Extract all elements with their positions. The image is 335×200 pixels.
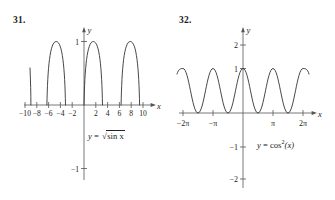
svg-text:2π: 2π [299, 119, 307, 128]
equation-label-31: y = √sin x [88, 130, 125, 141]
eqn31-lhs: y [88, 131, 92, 141]
svg-text:−2π: −2π [177, 119, 190, 128]
svg-text:−6: −6 [45, 109, 53, 118]
svg-text:1: 1 [75, 38, 79, 47]
x-axis-label: x [156, 101, 161, 111]
svg-text:10: 10 [139, 109, 147, 118]
y-axis-label: y [87, 25, 92, 35]
curve-sqrt-sin-x [30, 42, 140, 106]
svg-text:−8: −8 [33, 109, 41, 118]
svg-text:4: 4 [106, 109, 110, 118]
plot-cos-squared-x: y x −2π −π π 2π 2 1 −1 −2 [167, 0, 335, 200]
eqn32-function: cos [270, 140, 281, 150]
svg-text:6: 6 [118, 109, 122, 118]
svg-text:−2: −2 [68, 109, 76, 118]
svg-text:2: 2 [94, 109, 98, 118]
svg-text:−10: −10 [19, 109, 31, 118]
svg-text:2: 2 [234, 41, 238, 50]
y-axis-arrow-icon [241, 27, 245, 32]
eqn31-equals: = [94, 131, 99, 141]
x-tick-labels: −10 −8 −6 −4 −2 2 4 6 8 10 [19, 109, 147, 118]
sqrt-radical-icon: √sin x [101, 130, 125, 141]
svg-text:−1: −1 [71, 165, 79, 174]
plot-sqrt-sin-x: y x −10 −8 −6 −4 −2 2 4 6 8 10 1 −1 [0, 0, 167, 200]
y-tick-labels: 2 1 −1 −2 [229, 41, 238, 184]
svg-text:−π: −π [209, 119, 218, 128]
x-tick-labels: −2π −π π 2π [177, 119, 307, 128]
svg-text:−2: −2 [229, 175, 238, 184]
problem-31-panel: 31. [0, 0, 167, 200]
svg-text:π: π [271, 119, 275, 128]
eqn32-equals: = [263, 140, 268, 150]
svg-text:1: 1 [234, 65, 238, 74]
x-axis-label: x [317, 109, 322, 119]
equation-label-32: y = cos2(x) [257, 140, 294, 150]
x-axis-arrow-icon [312, 111, 317, 115]
y-axis-label: y [246, 25, 251, 35]
svg-text:−1: −1 [229, 143, 238, 152]
svg-text:−4: −4 [56, 109, 64, 118]
eqn32-lhs: y [257, 140, 261, 150]
svg-text:8: 8 [129, 109, 133, 118]
y-axis-arrow-icon [82, 27, 86, 32]
eqn32-argument: (x) [285, 140, 295, 150]
problem-32-panel: 32. y x −2π −π π 2 [167, 0, 335, 200]
x-axis-arrow-icon [151, 103, 156, 107]
eqn31-radicand: sin x [106, 130, 124, 141]
